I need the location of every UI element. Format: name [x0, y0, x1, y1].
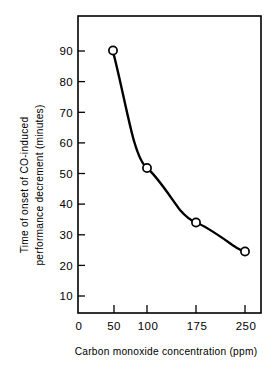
x-tick-label: 175: [187, 320, 207, 332]
y-tick-label: 90: [59, 45, 73, 57]
x-tick-label: 100: [138, 320, 158, 332]
plot-frame: [78, 16, 261, 313]
data-markers: [109, 46, 249, 255]
data-point-marker: [241, 247, 249, 255]
chart-figure: 90 80 70 60 50 40 30 20 10 0 50 100 175 …: [0, 0, 275, 369]
y-axis-ticks: [78, 51, 85, 296]
x-axis-tick-labels: 0 50 100 175 250: [76, 320, 257, 332]
y-tick-label: 20: [59, 260, 73, 272]
data-point-marker: [143, 164, 151, 172]
y-axis-tick-labels: 90 80 70 60 50 40 30 20 10: [59, 45, 73, 302]
x-axis-ticks: [114, 305, 245, 313]
y-tick-label: 10: [59, 290, 73, 302]
y-axis-title-line2: performance decrement (minutes): [34, 104, 45, 265]
line-chart: 90 80 70 60 50 40 30 20 10 0 50 100 175 …: [0, 0, 275, 369]
y-axis-title-line1: Time of onset of CO-induced: [19, 117, 30, 254]
x-tick-label: 0: [76, 320, 83, 332]
y-tick-label: 50: [59, 168, 73, 180]
data-series-line: [113, 52, 245, 252]
y-tick-label: 30: [59, 229, 73, 241]
y-tick-label: 40: [59, 198, 73, 210]
x-axis-title: Carbon monoxide concentration (ppm): [75, 346, 258, 357]
y-tick-label: 60: [59, 137, 73, 149]
y-tick-label: 80: [59, 76, 73, 88]
data-point-marker: [109, 46, 117, 54]
x-tick-label: 50: [107, 320, 121, 332]
x-tick-label: 250: [236, 320, 256, 332]
y-tick-label: 70: [59, 107, 73, 119]
data-point-marker: [192, 218, 200, 226]
